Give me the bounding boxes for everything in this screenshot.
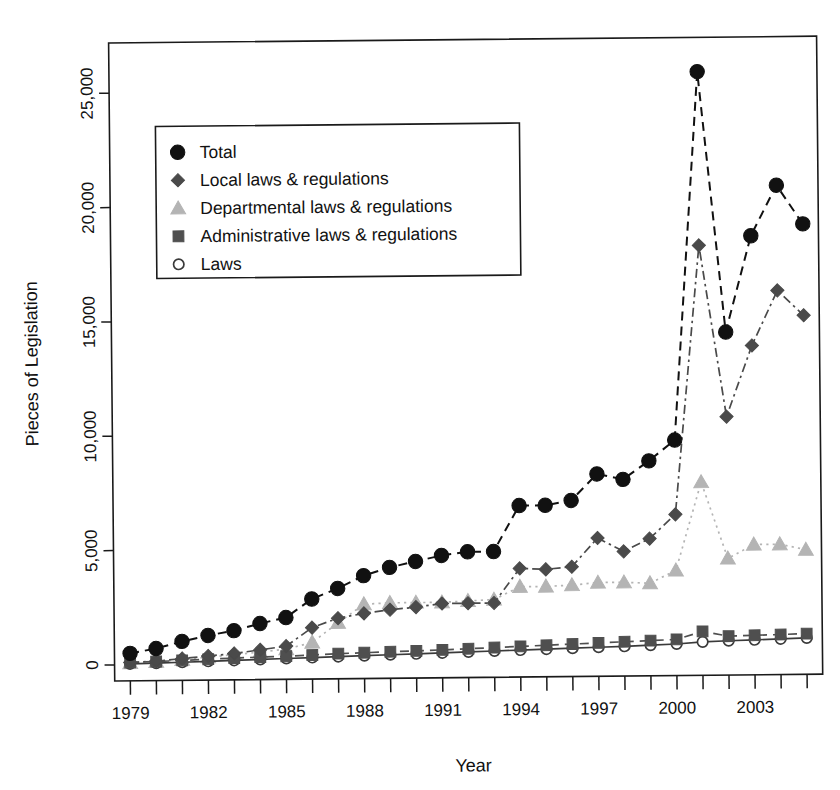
data-point-filled-circle — [744, 228, 759, 243]
data-point-filled-triangle — [590, 575, 605, 588]
legend-label: Administrative laws & regulations — [200, 224, 457, 246]
data-point-filled-triangle — [798, 542, 813, 555]
x-axis-title: Year — [455, 755, 492, 775]
data-point-filled-square — [749, 630, 760, 641]
data-point-filled-diamond — [692, 239, 705, 252]
data-point-filled-diamond — [305, 621, 318, 634]
data-point-filled-square — [645, 635, 656, 646]
data-point-filled-square — [541, 640, 552, 651]
data-point-open-circle — [697, 637, 707, 647]
data-point-filled-square — [697, 626, 708, 637]
data-point-filled-square — [619, 636, 630, 647]
y-tick-label: 20,000 — [78, 182, 97, 234]
data-point-filled-circle — [175, 634, 190, 649]
legend-item[interactable]: Local laws & regulations — [171, 168, 389, 190]
data-point-filled-circle — [590, 467, 605, 482]
data-point-filled-square — [437, 644, 448, 655]
data-point-filled-triangle — [538, 579, 553, 592]
data-point-filled-diamond — [720, 410, 733, 423]
data-point-filled-triangle — [617, 575, 632, 588]
data-point-filled-triangle — [772, 537, 787, 550]
data-point-filled-circle — [253, 616, 268, 631]
data-point-filled-diamond — [771, 284, 784, 297]
x-axis-tick-labels: 197919821985198819911994199720002003 — [112, 698, 775, 723]
series-local-laws-regulations — [120, 238, 814, 669]
data-point-filled-triangle — [746, 537, 761, 550]
data-point-filled-diamond — [513, 562, 526, 575]
y-tick-label: 0 — [83, 660, 102, 670]
data-point-filled-circle — [460, 545, 475, 560]
data-point-filled-triangle — [305, 635, 320, 648]
data-point-filled-circle — [279, 610, 294, 625]
data-point-filled-circle — [642, 454, 657, 469]
data-point-filled-square — [463, 643, 474, 654]
y-tick-label: 5,000 — [82, 529, 101, 572]
data-point-filled-triangle — [694, 475, 709, 488]
data-point-filled-circle — [201, 628, 216, 643]
x-tick-label: 1979 — [112, 704, 150, 723]
legend-label: Total — [200, 142, 237, 162]
legend-item[interactable]: Departmental laws & regulations — [171, 196, 453, 219]
data-point-filled-diamond — [487, 596, 500, 609]
data-point-filled-square — [593, 637, 604, 648]
data-point-filled-circle — [795, 217, 810, 232]
data-point-filled-circle — [330, 581, 345, 596]
data-point-filled-triangle — [668, 563, 683, 576]
chart-page: 05,00010,00015,00020,00025,000 197919821… — [0, 0, 840, 790]
x-tick-label: 1982 — [190, 703, 228, 722]
data-point-filled-diamond — [539, 563, 552, 576]
y-axis-title: Pieces of Legislation — [21, 281, 43, 446]
data-point-filled-diamond — [617, 545, 630, 558]
data-point-filled-circle — [149, 641, 164, 656]
data-point-filled-circle — [769, 178, 784, 193]
data-point-filled-square — [385, 646, 396, 657]
x-tick-label: 1991 — [424, 701, 462, 720]
data-point-filled-circle — [382, 560, 397, 575]
data-point-filled-triangle — [512, 579, 527, 592]
data-point-filled-circle — [227, 623, 242, 638]
data-point-filled-triangle — [720, 551, 735, 564]
data-point-filled-circle — [305, 592, 320, 607]
data-point-filled-circle — [718, 325, 733, 340]
data-point-filled-circle — [356, 568, 371, 583]
y-axis-tick-labels: 05,00010,00015,00020,00025,000 — [77, 67, 102, 670]
legend-label: Local laws & regulations — [200, 168, 389, 190]
data-point-filled-square — [307, 650, 318, 661]
data-point-filled-circle — [486, 544, 501, 559]
data-point-filled-square — [723, 631, 734, 642]
data-point-filled-circle — [170, 145, 185, 160]
series-departmental-laws-regulations — [121, 474, 814, 669]
y-tick-label: 10,000 — [81, 410, 100, 462]
data-point-open-circle — [173, 259, 183, 269]
data-point-filled-square — [801, 628, 812, 639]
y-tick-label: 15,000 — [80, 296, 99, 348]
x-tick-label: 2003 — [736, 698, 774, 717]
data-point-filled-circle — [434, 548, 449, 563]
data-point-filled-circle — [512, 498, 527, 513]
data-point-filled-square — [489, 642, 500, 653]
x-tick-label: 1997 — [580, 699, 618, 718]
x-tick-label: 1994 — [502, 700, 540, 719]
data-point-filled-circle — [690, 64, 705, 79]
x-tick-label: 1985 — [268, 702, 306, 721]
data-point-filled-square — [671, 634, 682, 645]
data-point-filled-circle — [538, 498, 553, 513]
data-point-filled-circle — [564, 493, 579, 508]
data-point-filled-square — [359, 647, 370, 658]
data-point-filled-square — [333, 648, 344, 659]
data-point-filled-triangle — [564, 578, 579, 591]
x-tick-label: 1988 — [346, 701, 384, 720]
data-point-filled-diamond — [745, 339, 758, 352]
data-point-filled-square — [775, 629, 786, 640]
chart-legend: TotalLocal laws & regulationsDepartmenta… — [155, 123, 520, 278]
legend-label: Laws — [201, 254, 242, 274]
data-point-filled-square — [173, 231, 184, 242]
chart-skew-wrapper: 05,00010,00015,00020,00025,000 197919821… — [0, 0, 840, 790]
legend-item[interactable]: Administrative laws & regulations — [173, 224, 458, 247]
data-point-filled-diamond — [669, 508, 682, 521]
data-point-filled-square — [567, 639, 578, 650]
data-point-filled-square — [515, 641, 526, 652]
legend-label: Departmental laws & regulations — [200, 196, 452, 218]
data-point-filled-circle — [123, 646, 138, 661]
x-tick-label: 2000 — [658, 698, 696, 717]
